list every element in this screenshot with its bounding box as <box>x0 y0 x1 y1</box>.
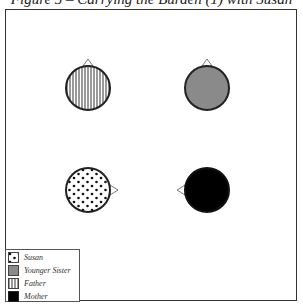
black-swatch-icon <box>8 291 19 302</box>
susan-circle <box>66 168 110 212</box>
mother-circle <box>185 168 229 212</box>
up-pointer-icon <box>83 59 93 66</box>
up-pointer-icon <box>202 59 212 66</box>
legend-label: Younger Sister <box>24 266 71 275</box>
left-pointer-icon <box>177 185 185 195</box>
younger-sister-node <box>185 59 229 110</box>
vertical-lines-swatch-icon <box>8 278 19 289</box>
legend-label: Father <box>24 279 46 288</box>
gray-swatch-icon <box>8 265 19 276</box>
legend: Susan Younger Sister Father Mother <box>5 249 80 302</box>
mother-node <box>177 168 229 212</box>
father-node <box>66 59 110 110</box>
legend-label: Mother <box>24 292 48 301</box>
younger-sister-circle <box>185 66 229 110</box>
legend-item-mother: Mother <box>8 290 48 302</box>
susan-node <box>66 168 118 212</box>
legend-item-father: Father <box>8 277 46 289</box>
legend-item-susan: Susan <box>8 251 43 263</box>
father-circle <box>66 66 110 110</box>
right-pointer-icon <box>110 185 118 195</box>
dots-swatch-icon <box>8 252 19 263</box>
legend-item-younger-sister: Younger Sister <box>8 264 71 276</box>
legend-label: Susan <box>24 253 43 262</box>
